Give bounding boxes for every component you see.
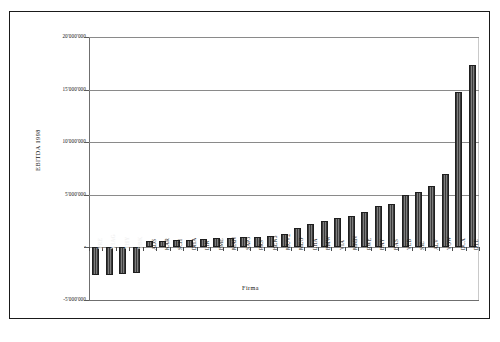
y-axis-tick bbox=[84, 300, 89, 301]
x-axis-tick-label: MAN bbox=[232, 237, 237, 250]
x-axis-tick-label: DHA bbox=[192, 238, 197, 250]
y-axis-title: EBITDA 1998 bbox=[34, 129, 41, 171]
x-axis-tick-label: HEN3 bbox=[273, 236, 278, 251]
chart-frame: 20'000'00015'000'00010'000'0005'000'000-… bbox=[9, 11, 490, 319]
x-axis-tick-label: LIN bbox=[205, 241, 210, 251]
x-axis-tick-label: DCX bbox=[461, 238, 466, 250]
bar-series bbox=[89, 37, 479, 300]
x-axis-tick-label: SAP3 bbox=[246, 237, 251, 250]
bar bbox=[469, 65, 476, 247]
x-axis-tick-label: BMW bbox=[326, 236, 331, 250]
gridline bbox=[89, 300, 479, 301]
x-axis-tick-label: VEB bbox=[407, 239, 412, 250]
x-axis-tick-label: FME bbox=[219, 239, 224, 251]
x-axis-tick-label: THY bbox=[125, 237, 130, 249]
x-axis-tick-label: PRS bbox=[259, 240, 264, 250]
y-axis-tick-label: 15'000'000 bbox=[62, 87, 86, 92]
y-axis-labels: 20'000'00015'000'00010'000'0005'000'000-… bbox=[10, 37, 86, 300]
y-axis-tick-label: 10'000'000 bbox=[62, 140, 86, 145]
bar bbox=[455, 92, 462, 248]
x-axis-tick-label: LHA bbox=[313, 239, 318, 251]
x-axis-tick-label: VIA bbox=[340, 240, 345, 250]
x-axis-tick-label: ADS bbox=[152, 239, 157, 250]
x-axis-tick-label: SIE bbox=[420, 242, 425, 251]
x-axis-tick-label: VIAG bbox=[111, 235, 116, 250]
bar bbox=[133, 247, 140, 272]
x-axis-tick-label: KAR bbox=[165, 238, 170, 250]
y-axis-tick-label: 5'000'000 bbox=[65, 192, 86, 197]
x-axis-tick-label: BAS bbox=[394, 239, 399, 250]
x-axis-tick-label: RWE bbox=[367, 238, 372, 250]
bar bbox=[106, 247, 113, 274]
plot-area bbox=[89, 37, 479, 300]
x-axis-tick-label: MMN bbox=[353, 236, 358, 250]
cropped-header-text bbox=[0, 0, 500, 6]
bar bbox=[415, 192, 422, 248]
x-axis-tick-label: PRE bbox=[98, 238, 103, 249]
x-axis-tick-label: SCH bbox=[178, 239, 183, 250]
x-axis-tick bbox=[89, 247, 90, 251]
y-axis-tick-label: -5'000'000 bbox=[63, 297, 86, 302]
x-axis-tick-label: VOW bbox=[447, 237, 452, 250]
x-axis-tick-label: DTE bbox=[474, 239, 479, 250]
x-axis-tick-label: MUV2 bbox=[286, 234, 291, 250]
y-axis-tick-label: 20'000'000 bbox=[62, 34, 86, 39]
chart-page: 20'000'00015'000'00010'000'0005'000'000-… bbox=[0, 0, 500, 342]
x-axis-tick-label: BAY bbox=[380, 239, 385, 251]
bar bbox=[119, 247, 126, 273]
x-axis-title: Firma bbox=[10, 284, 491, 291]
x-axis-tick-label: MEO bbox=[299, 238, 304, 251]
x-axis-tick-label: ALV bbox=[434, 239, 439, 250]
bar bbox=[92, 247, 99, 274]
x-axis-tick-label: DBK bbox=[138, 237, 143, 249]
x-axis-labels: PREVIAGTHYDBKADSKARSCHDHALINFMEMANSAP3PR… bbox=[89, 12, 479, 52]
